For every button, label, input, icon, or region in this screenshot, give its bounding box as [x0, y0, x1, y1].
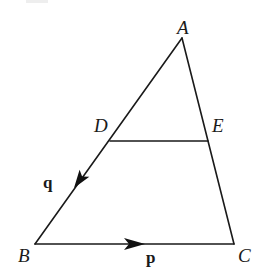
label-vector-q: q	[43, 173, 53, 192]
label-point-b: B	[18, 245, 30, 266]
label-point-c: C	[238, 245, 251, 266]
label-point-a: A	[175, 17, 189, 38]
label-point-e: E	[211, 115, 224, 136]
label-vector-p: p	[146, 248, 155, 267]
label-point-d: D	[93, 115, 108, 136]
triangle-diagram: A B C D E q p	[0, 0, 263, 274]
scan-artifact	[26, 0, 48, 3]
